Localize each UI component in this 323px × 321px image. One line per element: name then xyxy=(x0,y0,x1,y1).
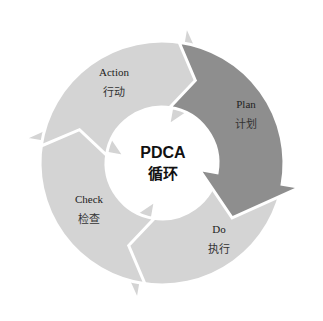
step-action-label-cn: 行动 xyxy=(103,86,125,99)
center-subtitle: 循环 xyxy=(148,165,178,183)
pdca-cycle-diagram: Action 行动 Plan 计划 Do 执行 Check 检查 PDCA 循环 xyxy=(0,0,323,321)
step-plan-label-en: Plan xyxy=(236,98,256,110)
step-check-label-cn: 检查 xyxy=(78,212,100,226)
center-label: PDCA 循环 xyxy=(140,144,186,183)
step-do-label-en: Do xyxy=(212,223,226,235)
center-title: PDCA xyxy=(140,144,186,161)
step-plan-label-cn: 计划 xyxy=(235,118,257,131)
step-do-label-cn: 执行 xyxy=(208,242,230,256)
step-check-label-en: Check xyxy=(75,193,104,205)
step-action-label-en: Action xyxy=(99,66,129,78)
